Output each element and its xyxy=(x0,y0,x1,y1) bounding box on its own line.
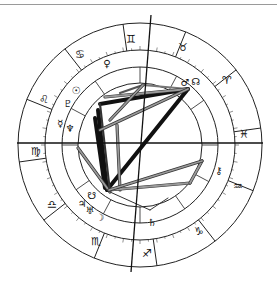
planet-mars-icon: ♂ xyxy=(181,77,190,88)
sign-sagittarius-icon: ♐ xyxy=(142,247,152,260)
degree-tick xyxy=(234,128,238,129)
degree-tick xyxy=(76,69,79,72)
sign-scorpio-icon: ♏ xyxy=(91,235,101,248)
sign-divisions xyxy=(19,24,261,266)
sign-gemini-icon: ♊ xyxy=(126,33,136,46)
degree-tick xyxy=(106,52,107,56)
sign-virgo-icon: ♍ xyxy=(31,145,41,158)
degree-tick xyxy=(207,212,208,213)
degree-tick xyxy=(180,231,181,233)
degree-tick xyxy=(52,104,54,105)
degree-tick xyxy=(234,161,238,162)
degree-tick xyxy=(194,66,195,68)
degree-tick xyxy=(201,218,204,221)
planet-uranus-icon: ♅ xyxy=(86,205,95,216)
sign-aquarius-icon: ♒ xyxy=(233,180,243,193)
degree-tick xyxy=(99,231,100,233)
degree-tick xyxy=(156,48,157,52)
degree-tick xyxy=(218,89,220,90)
planet-moon-icon: ☽ xyxy=(96,212,105,223)
house-cusp-line xyxy=(176,196,185,209)
degree-tick xyxy=(91,227,93,230)
aspect-lines xyxy=(78,85,202,210)
aspect-line xyxy=(110,192,150,210)
planet-mercury-icon: ☿ xyxy=(57,118,63,129)
degree-tick xyxy=(84,66,85,68)
sign-cancer-icon: ♋ xyxy=(75,48,85,61)
sign-cusp-line xyxy=(153,239,157,266)
degree-tick xyxy=(201,69,204,72)
degree-tick xyxy=(213,81,216,84)
degree-tick xyxy=(84,223,85,225)
degree-tick xyxy=(61,199,63,200)
degree-tick xyxy=(156,239,157,243)
degree-tick xyxy=(99,57,100,59)
sign-taurus-icon: ♉ xyxy=(178,41,188,54)
aspect-line xyxy=(150,198,168,210)
degree-tick xyxy=(226,185,228,186)
chart-axes xyxy=(17,15,263,272)
sign-libra-icon: ♎ xyxy=(47,198,57,211)
house-cusp-line xyxy=(195,174,209,182)
planet-north-node-icon: ☊ xyxy=(192,76,201,87)
degree-tick xyxy=(188,227,190,230)
degree-tick xyxy=(207,76,208,77)
house-cusp-line xyxy=(191,100,204,109)
degree-tick xyxy=(64,206,67,209)
degree-tick xyxy=(52,185,54,186)
sign-pisces-icon: ♓ xyxy=(239,128,249,141)
degree-tick xyxy=(91,59,93,62)
planet-pluto-icon: ♇ xyxy=(64,98,73,109)
degree-tick xyxy=(172,234,173,238)
degree-tick xyxy=(43,161,47,162)
planet-south-node-icon: ☋ xyxy=(88,190,97,201)
degree-tick xyxy=(123,48,124,52)
degree-tick xyxy=(213,206,216,209)
degree-tick xyxy=(61,89,63,90)
planet-chiron-icon: ⚷ xyxy=(215,165,222,176)
sign-capricorn-icon: ♑ xyxy=(194,225,204,238)
degree-tick xyxy=(229,111,233,112)
degree-tick xyxy=(106,234,107,238)
house-cusp-line xyxy=(71,108,85,116)
degree-tick xyxy=(172,52,173,56)
degree-tick xyxy=(76,218,79,221)
degree-tick xyxy=(54,193,57,195)
house-cusp-line xyxy=(76,181,89,190)
planet-saturn-icon: ♄ xyxy=(148,217,157,228)
planet-neptune-icon: ♆ xyxy=(66,123,75,134)
chart-rings xyxy=(18,23,262,267)
degree-tick xyxy=(226,104,228,105)
degree-tick xyxy=(218,199,220,200)
degree-tick xyxy=(54,96,57,98)
degree-tick xyxy=(222,96,225,98)
degree-tick xyxy=(64,81,67,84)
degree-tick xyxy=(47,111,51,112)
degree-tick xyxy=(43,128,47,129)
degree-tick xyxy=(47,177,51,178)
planet-sun-icon: ☉ xyxy=(72,85,81,96)
planet-venus-icon: ♀ xyxy=(103,58,110,69)
house-cusp-line xyxy=(95,81,104,94)
degree-tick xyxy=(180,57,181,59)
degree-tick xyxy=(123,239,124,243)
outer-circle xyxy=(18,23,262,267)
sign-leo-icon: ♌ xyxy=(39,93,49,106)
sign-aries-icon: ♈ xyxy=(222,74,232,87)
house-cusp-line xyxy=(103,200,111,214)
sign-cusp-line xyxy=(19,158,46,162)
degree-tick xyxy=(222,193,225,195)
degree-tick xyxy=(71,212,72,213)
natal-chart-wheel: ♊♉♈♓♒♑♐♏♎♍♌♋ ♀♂☊☉♇☿♆⚷♄☽♃♅☋ xyxy=(0,0,277,287)
degree-tick xyxy=(188,59,190,62)
degree-tick xyxy=(71,76,72,77)
